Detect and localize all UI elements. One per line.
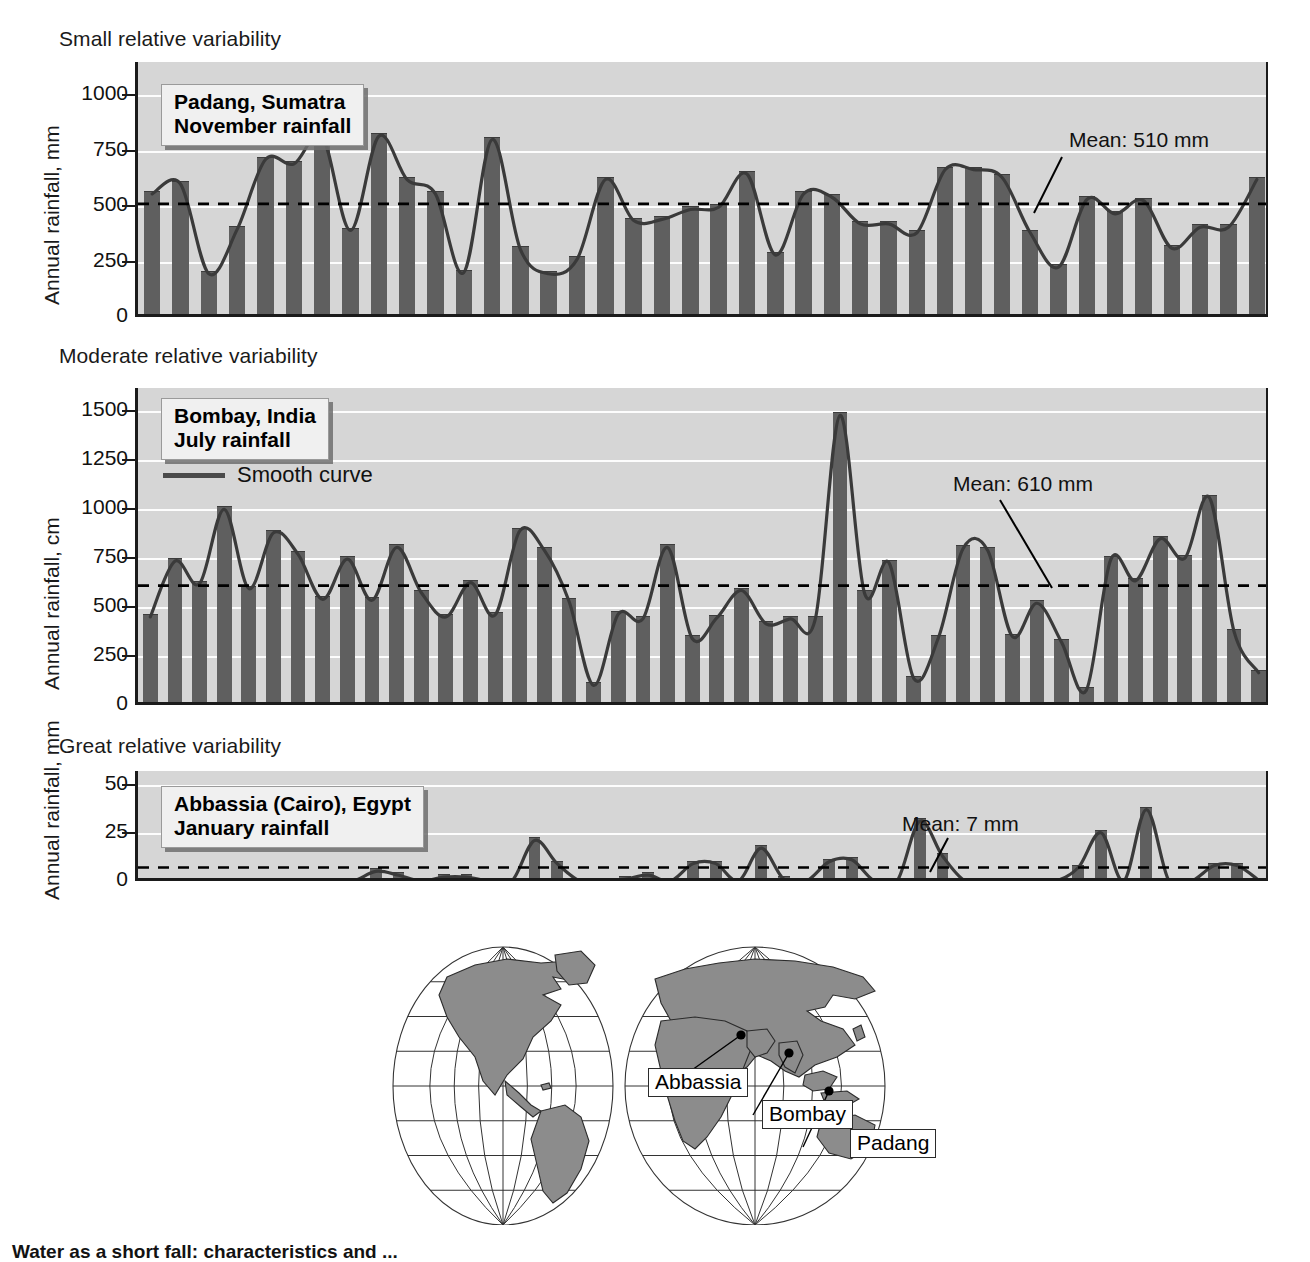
chart-title-line1: Abbassia (Cairo), Egypt [174,792,411,816]
landmass [555,951,595,985]
y-tick-label: 25 [105,819,128,843]
chart-title-line2: January rainfall [174,816,411,840]
y-tick-label: 0 [116,867,128,891]
y-tick-mark [122,784,135,786]
landmass [531,1105,589,1203]
figure-caption: Water as a short fall: characteristics a… [12,1241,398,1262]
chart-title-box-abbassia: Abbassia (Cairo), Egypt January rainfall [161,786,424,848]
mean-label-abbassia: Mean: 7 mm [902,812,1019,836]
landmass [853,1025,865,1041]
map-label-bombay: Bombay [762,1100,853,1129]
landmass [541,1083,551,1090]
chart-abbassia: 02550 [0,0,1310,920]
map-label-padang: Padang [850,1129,936,1158]
y-tick-mark [122,832,135,834]
y-tick-label: 50 [105,771,128,795]
map-label-abbassia: Abbassia [648,1068,748,1097]
